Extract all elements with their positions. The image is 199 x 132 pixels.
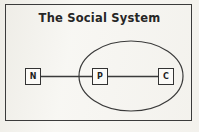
node-p-label: P (97, 72, 103, 80)
figure-canvas: The Social System N P C (0, 0, 199, 132)
node-c-label: C (163, 72, 169, 80)
diagram-graphics (0, 0, 199, 132)
node-c[interactable]: C (158, 68, 174, 85)
node-n[interactable]: N (25, 68, 41, 85)
node-p[interactable]: P (92, 68, 108, 85)
node-n-label: N (30, 72, 37, 80)
